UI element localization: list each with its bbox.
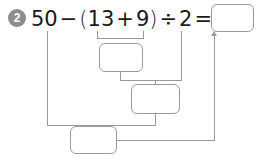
line-divisor-down	[181, 31, 182, 81]
line-minuend-down	[47, 31, 48, 126]
answer-box-difference[interactable]	[70, 126, 117, 154]
close-paren: )	[149, 7, 157, 31]
answer-box-quotient[interactable]	[131, 84, 180, 114]
plus-operator: +	[116, 7, 134, 31]
operand-2: 2	[179, 7, 192, 31]
operand-9: 9	[136, 7, 149, 31]
line-sum-to-divide	[120, 80, 182, 81]
open-paren: (	[79, 7, 87, 31]
bracket-paren-right-tick	[143, 31, 144, 39]
line-result-right	[117, 140, 215, 141]
worksheet-problem: 2 50 − ( 13 + 9 ) ÷ 2 =	[0, 0, 261, 164]
divide-operator: ÷	[159, 7, 177, 31]
operand-13: 13	[88, 7, 115, 31]
equals-operator: =	[194, 7, 212, 31]
expression: 50 − ( 13 + 9 ) ÷ 2 =	[31, 5, 214, 33]
problem-number-badge: 2	[8, 9, 26, 27]
minus-operator: −	[60, 7, 78, 31]
operand-50: 50	[31, 7, 58, 31]
bracket-paren-span	[97, 38, 144, 39]
line-result-up	[214, 33, 215, 141]
answer-box-final[interactable]	[211, 4, 254, 32]
answer-box-sum[interactable]	[99, 43, 143, 72]
